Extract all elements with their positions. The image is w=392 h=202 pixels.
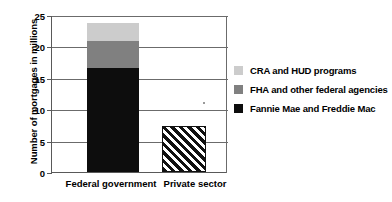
bar-segment-fha-federal[interactable]: [87, 41, 139, 68]
legend-item-cra-hud[interactable]: CRA and HUD programs: [234, 61, 388, 80]
tick-mark-0: [47, 173, 52, 174]
legend-label-cra-hud: CRA and HUD programs: [250, 65, 356, 76]
bar-federal-government[interactable]: [87, 23, 139, 172]
tick-mark-25: [47, 16, 52, 17]
plot-area: 25 20 15 10 5 0: [51, 16, 227, 173]
legend: CRA and HUD programs FHA and other feder…: [234, 61, 388, 118]
legend-swatch-fha-federal-icon: [234, 85, 243, 94]
tick-mark-15: [47, 79, 52, 80]
legend-item-fha-federal[interactable]: FHA and other federal agencies: [234, 80, 388, 99]
y-axis-title: Number of mortgages in millions: [28, 7, 39, 177]
gridline-20: [52, 47, 228, 48]
y-tick-label-15: 15: [34, 73, 45, 84]
gridline-15: [52, 79, 228, 80]
x-axis-label-private-sector: Private sector: [140, 178, 250, 189]
tick-mark-5: [47, 142, 52, 143]
gridline-10: [52, 110, 228, 111]
legend-swatch-cra-hud-icon: [234, 66, 243, 75]
bar-segment-cra-hud[interactable]: [87, 23, 139, 41]
legend-label-fannie-freddie: Fannie Mae and Freddie Mac: [250, 103, 375, 114]
y-tick-label-5: 5: [40, 136, 45, 147]
mortgage-bar-chart: Number of mortgages in millions 25 20 15…: [0, 0, 392, 202]
gridline-25: [52, 16, 228, 17]
tick-mark-20: [47, 47, 52, 48]
bar-private-sector[interactable]: [162, 126, 206, 173]
plot-right-border: [226, 16, 227, 173]
y-tick-label-25: 25: [34, 11, 45, 22]
tick-mark-10: [47, 110, 52, 111]
y-tick-label-0: 0: [40, 168, 45, 179]
bar-segment-fannie-freddie[interactable]: [87, 68, 139, 172]
legend-swatch-fannie-freddie-icon: [234, 104, 243, 113]
stray-speck: [203, 102, 205, 104]
legend-label-fha-federal: FHA and other federal agencies: [250, 84, 388, 95]
y-tick-label-20: 20: [34, 42, 45, 53]
legend-item-fannie-freddie[interactable]: Fannie Mae and Freddie Mac: [234, 99, 388, 118]
y-tick-label-10: 10: [34, 105, 45, 116]
